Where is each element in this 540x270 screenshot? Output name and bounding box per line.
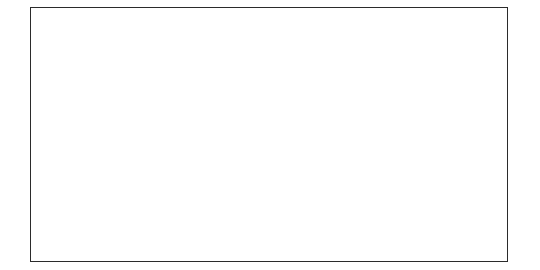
chart-container: Mean crime days/year 250 200 150 100 50 … [0,0,540,270]
figure-border [30,7,508,262]
